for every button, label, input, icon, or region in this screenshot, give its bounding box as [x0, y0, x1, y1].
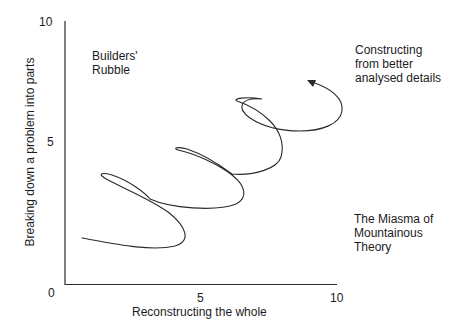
y-tick-10: 10: [39, 16, 52, 28]
annotation-miasma-line3: Theory: [354, 240, 391, 254]
annotation-constructing-line2: from better: [355, 57, 413, 71]
y-tick-5: 5: [47, 136, 54, 148]
x-tick-5: 5: [197, 292, 204, 304]
annotation-miasma-line2: Mountainous: [354, 226, 423, 240]
origin-tick: 0: [48, 287, 55, 299]
annotation-miasma-line1: The Miasma of: [354, 212, 433, 226]
annotation-builders-rubble-line1: Builders': [92, 49, 138, 63]
spiral-curve: [82, 82, 342, 248]
x-axis-label: Reconstructing the whole: [132, 305, 267, 319]
annotation-constructing-line3: analysed details: [355, 71, 441, 85]
y-axis-label: Breaking down a problem into parts: [23, 56, 37, 248]
x-tick-10: 10: [330, 292, 343, 304]
annotation-constructing-line1: Constructing: [355, 43, 422, 57]
annotation-builders-rubble-line2: Rubble: [92, 63, 130, 77]
